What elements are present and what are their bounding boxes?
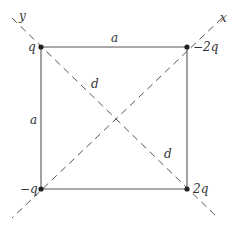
charge-dot-top-left [38, 44, 43, 49]
charge-dot-top-right [184, 44, 189, 49]
diagonal-label-upper: d [91, 78, 99, 90]
charge-label-top-right: −2q [193, 41, 218, 53]
x-axis-dashed-line [12, 18, 222, 218]
charge-label-bottom-right: 2q [193, 183, 208, 195]
y-axis-label: y [19, 10, 26, 22]
diagonal-label-lower: d [164, 148, 172, 160]
x-axis-label: x [220, 12, 227, 24]
side-label-top: a [111, 32, 118, 44]
charge-label-top-left: q [28, 41, 36, 53]
charge-dot-bottom-left [38, 186, 43, 191]
charge-label-bottom-left: −q [20, 183, 38, 195]
side-label-left: a [30, 114, 37, 126]
charge-dot-bottom-right [184, 186, 189, 191]
